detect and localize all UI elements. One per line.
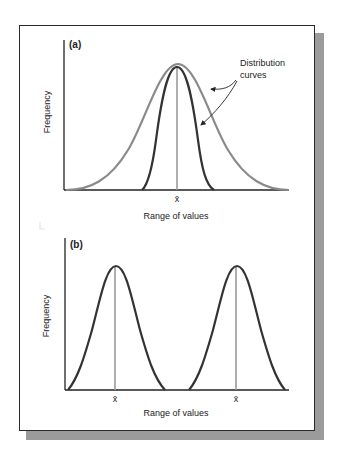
panel-b-y-axis-label: Frequency [41,294,51,337]
figure-svg: (a) Distribution curves Frequency x̄ Ran… [0,0,338,456]
panel-b-x-axis-label: Range of values [143,408,209,418]
annotation-line-1: Distribution [240,58,285,68]
panel-b-right-mean-label: x̄ [234,394,239,404]
panel-a: (a) Distribution curves Frequency x̄ Ran… [42,39,289,221]
right-distribution-curve [189,266,285,390]
annotation-line-2: curves [240,70,267,80]
panel-a-mean-label: x̄ [175,194,180,204]
panel-a-y-axis-label: Frequency [42,90,52,133]
panel-b: (b) Frequency x̄ x̄ Range of values [41,238,289,418]
panel-b-left-mean-label: x̄ [113,394,118,404]
narrow-distribution-curve [142,67,214,190]
left-distribution-curve [68,266,165,390]
annotation-arrow-wide [211,80,236,89]
panel-b-label: (b) [70,239,83,250]
panel-a-x-axis-label: Range of values [143,211,209,221]
scan-artifact [40,222,45,229]
panel-a-label: (a) [69,39,81,50]
